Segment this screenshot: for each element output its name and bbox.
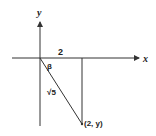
x-axis-label: x (142, 53, 148, 64)
horizontal-leg-label: 2 (58, 47, 63, 57)
right-triangle-diagram: x y 2 β √5 (2, y) (0, 0, 156, 136)
y-axis-label: y (36, 7, 42, 18)
point-marker (81, 123, 83, 125)
angle-beta-label: β (47, 62, 52, 71)
point-label: (2, y) (84, 119, 103, 128)
hypotenuse-label: √5 (47, 88, 56, 97)
